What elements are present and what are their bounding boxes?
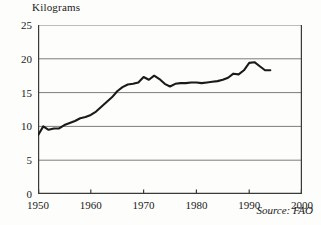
source-note: Source: FAO <box>256 204 313 216</box>
gridlines-group <box>38 25 302 160</box>
y-tick-label: 25 <box>21 19 32 31</box>
y-tick-label: 15 <box>21 87 32 99</box>
axis-ticks-group <box>38 25 301 194</box>
chart-svg <box>38 25 302 194</box>
chart-container: Kilograms 0510152025 1950196019701980199… <box>0 0 321 225</box>
x-tick-label: 1980 <box>185 199 207 211</box>
y-tick-label: 20 <box>21 53 32 65</box>
y-axis-title: Kilograms <box>32 1 80 13</box>
data-series-line <box>38 62 270 135</box>
y-tick-label: 10 <box>21 120 32 132</box>
plot-area: 0510152025 195019601970198019902000 <box>38 25 302 194</box>
y-tick-label: 5 <box>27 154 33 166</box>
x-tick-label: 1950 <box>27 199 49 211</box>
x-tick-label: 1970 <box>133 199 155 211</box>
x-tick-label: 1960 <box>80 199 102 211</box>
